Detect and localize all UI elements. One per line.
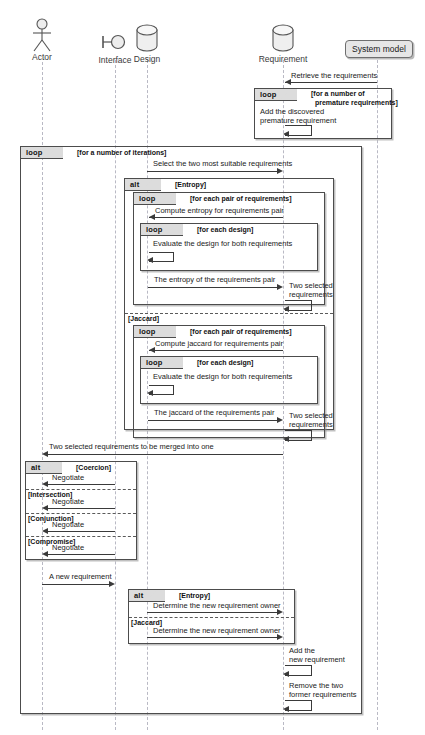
message-label-m16: Negotiate (52, 543, 84, 552)
fragment-keyword-similarity: alt (125, 180, 143, 189)
fragment-guard-coercion: [Coercion] (76, 464, 111, 473)
fragment-tab-entropy-pairs: loop (134, 193, 176, 205)
fragment-alt-owner: alt [Entropy] [Jaccard] (128, 589, 295, 644)
message-arrowhead-m12 (42, 451, 48, 457)
participant-systemmodel[interactable]: System model (345, 40, 413, 58)
fragment-separator-conjunction (26, 513, 136, 514)
message-label-m5: Evaluate the design for both requirement… (153, 239, 292, 248)
message-arrowhead-m14 (42, 505, 48, 511)
participant-requirement[interactable]: Requirement (249, 24, 317, 64)
message-self-m7 (285, 300, 312, 311)
message-label-m2: Add the discovered premature requirement (260, 107, 336, 125)
fragment-separator-jaccard (125, 313, 333, 314)
fragment-keyword-iterations: loop (21, 148, 47, 157)
message-arrowhead-m7 (283, 306, 289, 312)
message-line-m18 (147, 612, 277, 613)
fragment-guard-owner-entropy: [Entropy] (179, 592, 210, 601)
message-label-m17: A new requirement (49, 572, 112, 581)
message-label-m6: The entropy of the requirements pair (154, 275, 275, 284)
message-arrowhead-m18 (277, 609, 283, 615)
fragment-tab-corner (167, 357, 176, 368)
fragment-tab-corner (167, 224, 176, 235)
fragment-tab-corner (281, 89, 290, 100)
participant-label-requirement: Requirement (249, 54, 317, 64)
message-label-m19: Determine the new requirement owner (153, 626, 281, 635)
message-arrowhead-m13 (42, 481, 48, 487)
message-label-m4: Compute entropy for requirements pair (155, 206, 284, 215)
message-arrowhead-m4 (149, 214, 155, 220)
fragment-guard-jaccard-designs: [for each design] (197, 359, 253, 368)
participant-actor[interactable]: Actor (12, 18, 72, 62)
fragment-guard-entropy-pairs: [for each pair of requirements] (190, 195, 292, 204)
message-line-m19 (147, 637, 277, 638)
message-label-m21: Remove the two former requirements (289, 681, 357, 699)
fragment-tab-premature: loop (255, 89, 297, 101)
fragment-separator-compromise (26, 536, 136, 537)
message-arrowhead-m5 (147, 257, 153, 263)
message-line-m4 (149, 217, 283, 218)
fragment-tab-corner (143, 179, 152, 190)
message-arrowhead-m3 (277, 168, 283, 174)
message-label-m20: Add the new requirement (289, 646, 345, 664)
fragment-tab-corner (160, 326, 169, 337)
message-label-m12: Two selected requirements to be merged i… (49, 442, 214, 451)
database-cylinder-icon-requirement (271, 24, 295, 54)
fragment-keyword-jaccard-designs: loop (141, 358, 167, 367)
message-label-m7: Two selected requirements (289, 281, 333, 299)
fragment-keyword-entropy-designs: loop (141, 225, 167, 234)
message-line-m12 (44, 454, 283, 455)
fragment-guard-entropy-designs: [for each design] (197, 226, 253, 235)
message-line-m13 (44, 484, 115, 485)
message-arrowhead-m20 (283, 671, 289, 677)
fragment-tab-jaccard-pairs: loop (134, 326, 176, 338)
fragment-guard-jaccard-pairs: [for each pair of requirements] (190, 328, 292, 337)
participant-label-design: Design (125, 54, 169, 64)
lifeline-systemmodel (377, 60, 378, 730)
fragment-guard-iterations: [for a number of iterations] (77, 149, 166, 158)
stick-figure-actor-icon (27, 18, 57, 52)
message-arrowhead-m6 (277, 284, 283, 290)
fragment-tab-similarity: alt (125, 179, 161, 191)
message-line-m6 (148, 287, 277, 288)
message-arrowhead-m19 (277, 634, 283, 640)
fragment-guard-entropy: [Entropy] (175, 181, 206, 190)
message-line-m17 (42, 584, 109, 585)
message-arrowhead-m10 (277, 417, 283, 423)
fragment-keyword-owner: alt (129, 591, 147, 600)
sequence-diagram-canvas: Actor Interface Design Requireme (0, 0, 425, 735)
fragment-tab-corner (47, 147, 56, 158)
fragment-tab-iterations: loop (21, 147, 63, 159)
fragment-guard-jaccard: [Jaccard] (128, 315, 159, 324)
message-line-m8 (149, 350, 283, 351)
message-label-m13: Negotiate (52, 473, 84, 482)
fragment-keyword-jaccard-pairs: loop (134, 327, 160, 336)
message-line-m10 (148, 420, 277, 421)
fragment-keyword-negotiation: alt (26, 463, 44, 472)
fragment-tab-jaccard-designs: loop (141, 357, 183, 369)
fragment-tab-corner (44, 462, 53, 473)
message-label-m11: Two selected requirements (289, 411, 333, 429)
participant-design[interactable]: Design (125, 24, 169, 64)
fragment-separator-intersection (26, 489, 136, 490)
message-label-m9: Evaluate the design for both requirement… (153, 372, 292, 381)
fragment-separator-owner-jaccard (129, 617, 294, 618)
message-label-m15: Negotiate (52, 520, 84, 529)
message-self-m2 (285, 125, 312, 136)
fragment-tab-corner (160, 193, 169, 204)
database-cylinder-icon-design (135, 24, 159, 54)
message-arrowhead-m8 (149, 347, 155, 353)
fragment-guard-premature: [for a number of premature requirements] (311, 90, 398, 107)
message-line-m15 (44, 531, 115, 532)
message-label-m18: Determine the new requirement owner (153, 601, 281, 610)
message-label-m14: Negotiate (52, 497, 84, 506)
message-self-m21 (285, 700, 312, 711)
message-arrowhead-m9 (147, 390, 153, 396)
message-line-m3 (147, 171, 277, 172)
message-label-m10: The jaccard of the requirements pair (154, 408, 274, 417)
participant-label-actor: Actor (12, 52, 72, 62)
fragment-keyword-premature: loop (255, 90, 281, 99)
message-arrowhead-m2 (283, 131, 289, 137)
message-label-m1: Retrieve the requirements (291, 71, 377, 80)
message-label-m8: Compute jaccard for requirements pair (155, 339, 283, 348)
message-arrowhead-m15 (42, 528, 48, 534)
